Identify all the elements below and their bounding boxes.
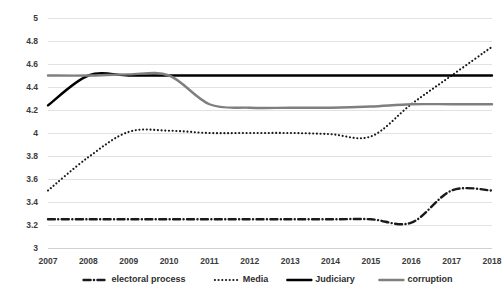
x-tick-label-2016: 2016 <box>402 256 421 266</box>
data-series <box>48 47 492 225</box>
line-chart: 33.23.43.63.844.24.44.64.85 200720082009… <box>0 0 503 302</box>
x-tick-label-2015: 2015 <box>361 256 380 266</box>
legend-label: corruption <box>407 274 452 284</box>
x-tick-label-2012: 2012 <box>240 256 259 266</box>
series-line-judiciary <box>48 73 492 105</box>
y-tick-label: 3.4 <box>26 197 38 207</box>
x-tick-label-2018: 2018 <box>483 256 502 266</box>
legend-item-electoral-process[interactable]: electoral process <box>84 274 186 284</box>
chart-legend: electoral processMediaJudiciarycorruptio… <box>84 274 453 284</box>
y-tick-label: 4 <box>33 128 38 138</box>
y-tick-label: 3.8 <box>26 151 38 161</box>
x-tick-label-2013: 2013 <box>281 256 300 266</box>
y-tick-label: 3.2 <box>26 220 38 230</box>
y-tick-label: 4.8 <box>26 36 38 46</box>
legend-label: Judiciary <box>315 274 355 284</box>
legend-label: Media <box>243 274 270 284</box>
x-tick-label-2007: 2007 <box>39 256 58 266</box>
y-tick-label: 5 <box>33 13 38 23</box>
y-tick-label: 4.4 <box>26 82 38 92</box>
x-tick-label-2014: 2014 <box>321 256 340 266</box>
legend-label: electoral process <box>112 274 186 284</box>
legend-item-media[interactable]: Media <box>215 274 270 284</box>
legend-item-corruption[interactable]: corruption <box>379 274 452 284</box>
y-axis-tick-labels: 33.23.43.63.844.24.44.64.85 <box>26 13 38 253</box>
x-axis-tick-labels: 2007200820092010201120122013201420152016… <box>39 256 502 266</box>
x-tick-label-2011: 2011 <box>200 256 219 266</box>
y-tick-label: 3.6 <box>26 174 38 184</box>
y-tick-label: 4.6 <box>26 59 38 69</box>
chart-canvas: 33.23.43.63.844.24.44.64.85 200720082009… <box>0 0 503 302</box>
legend-item-judiciary[interactable]: Judiciary <box>287 274 355 284</box>
y-tick-label: 3 <box>33 243 38 253</box>
series-line-corruption <box>48 73 492 108</box>
x-tick-label-2010: 2010 <box>160 256 179 266</box>
series-line-electoral-process <box>48 188 492 224</box>
x-tick-label-2017: 2017 <box>442 256 461 266</box>
y-tick-label: 4.2 <box>26 105 38 115</box>
x-tick-label-2008: 2008 <box>79 256 98 266</box>
series-line-media <box>48 47 492 191</box>
x-tick-label-2009: 2009 <box>119 256 138 266</box>
